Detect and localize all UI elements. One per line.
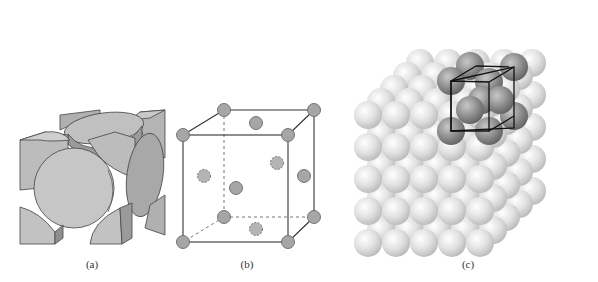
corner-atom [308, 211, 321, 224]
atom-sphere [354, 101, 382, 129]
atom-sphere [354, 165, 382, 193]
face-center-atom-hidden [198, 170, 211, 183]
atom-sphere [438, 165, 466, 193]
atom-sphere [410, 197, 438, 225]
corner-atom [177, 129, 190, 142]
corner-atom [282, 129, 295, 142]
panel-c-caption: (c) [462, 258, 475, 271]
panel-b-caption: (b) [241, 258, 254, 271]
face-center-atom [250, 117, 263, 130]
unit-cell-atom [456, 96, 484, 124]
corner-atom [218, 211, 231, 224]
atom-sphere [410, 229, 438, 257]
atom-sphere [410, 101, 438, 129]
atom-sphere [354, 229, 382, 257]
face-center-atom [298, 170, 311, 183]
panel-b-reduced-sphere-cell [177, 104, 321, 249]
atom-sphere [382, 101, 410, 129]
atom-sphere [466, 229, 494, 257]
atom-sphere [354, 133, 382, 161]
unit-cell-atom [486, 86, 514, 114]
panel-a-hard-sphere-cell [20, 108, 169, 244]
corner-atom [177, 236, 190, 249]
atom-sphere [382, 197, 410, 225]
corner-atom [218, 104, 231, 117]
atom-sphere [410, 165, 438, 193]
atom-sphere [410, 133, 438, 161]
atom-sphere [382, 229, 410, 257]
panel-a-caption: (a) [86, 258, 99, 271]
figure-canvas: (a) [0, 0, 598, 282]
atom-sphere [466, 197, 494, 225]
atom-sphere [382, 165, 410, 193]
corner-atom [308, 104, 321, 117]
atom-sphere [438, 229, 466, 257]
face-center-atom [230, 182, 243, 195]
atom-sphere [438, 197, 466, 225]
atom-sphere [382, 133, 410, 161]
face-center-atom-hidden [250, 223, 263, 236]
face-center-atom-hidden [271, 157, 284, 170]
atom-sphere [466, 165, 494, 193]
corner-atom [282, 236, 295, 249]
atom-sphere [354, 197, 382, 225]
